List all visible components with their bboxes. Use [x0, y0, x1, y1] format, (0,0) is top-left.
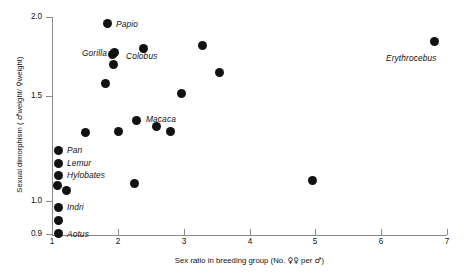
- data-point: [101, 79, 110, 88]
- data-point-label: Gorilla: [82, 48, 107, 58]
- x-tick-mark: [184, 229, 185, 235]
- data-point: [81, 128, 90, 137]
- data-point-label: Aotus: [67, 229, 89, 239]
- data-point: [108, 50, 117, 59]
- data-point: [130, 179, 139, 188]
- y-axis-title-mid: weight/: [15, 87, 24, 114]
- y-tick-mark: [46, 17, 52, 18]
- y-tick-mark: [46, 201, 52, 202]
- y-axis-title-post: weight): [15, 56, 24, 81]
- data-point: [103, 19, 112, 28]
- data-point: [430, 37, 439, 46]
- y-axis-line: [52, 17, 53, 235]
- data-point: [308, 176, 317, 185]
- data-point: [109, 60, 118, 69]
- male-symbol-x: ♂: [315, 256, 322, 265]
- x-tick-label: 5: [305, 237, 325, 246]
- data-point: [198, 41, 207, 50]
- data-point: [54, 229, 63, 238]
- data-point-label: Lemur: [67, 158, 91, 168]
- x-axis-title-post: ): [322, 256, 325, 265]
- data-point: [54, 171, 63, 180]
- y-axis-title-pre: Sexual dimorphism (: [15, 120, 24, 192]
- x-tick-mark: [315, 229, 316, 235]
- x-tick-mark: [447, 229, 448, 235]
- x-tick-label: 1: [42, 237, 62, 246]
- data-point-label: Erythrocebus: [386, 53, 437, 63]
- x-axis-title: Sex ratio in breeding group (No. ♀♀ per …: [52, 256, 447, 265]
- data-point: [177, 89, 186, 98]
- data-point-label: Indri: [67, 202, 84, 212]
- x-tick-label: 6: [371, 237, 391, 246]
- x-tick-mark: [118, 229, 119, 235]
- data-point: [53, 181, 62, 190]
- data-point-label: Colobus: [126, 51, 157, 61]
- data-point: [114, 127, 123, 136]
- male-symbol-y: ♂: [15, 113, 24, 120]
- x-axis-title-pre: Sex ratio in breeding group (No.: [175, 256, 288, 265]
- y-tick-mark: [46, 96, 52, 97]
- x-tick-label: 4: [240, 237, 260, 246]
- scatter-plot-figure: 2.01.51.00.9 1234567 Sexual dimorphism (…: [0, 0, 467, 278]
- data-point: [54, 146, 63, 155]
- x-tick-label: 2: [108, 237, 128, 246]
- data-point: [215, 68, 224, 77]
- data-point-label: Papio: [116, 19, 138, 29]
- data-point: [54, 159, 63, 168]
- data-point: [166, 127, 175, 136]
- data-point-label: Pan: [67, 145, 82, 155]
- female-symbol-x: ♀♀: [288, 256, 299, 265]
- x-tick-label: 7: [437, 237, 457, 246]
- data-point-label: Macaca: [146, 114, 176, 124]
- data-point: [54, 203, 63, 212]
- data-point: [62, 186, 71, 195]
- y-tick-label: 0.9: [16, 229, 42, 238]
- x-tick-mark: [250, 229, 251, 235]
- data-point-label: Hylobates: [67, 170, 105, 180]
- x-axis-title-mid: per: [299, 256, 315, 265]
- y-axis-title: Sexual dimorphism ( ♂weight/ ♀weight): [15, 25, 24, 225]
- data-point: [54, 216, 63, 225]
- x-tick-mark: [381, 229, 382, 235]
- data-point: [132, 116, 141, 125]
- female-symbol-y: ♀: [15, 81, 24, 87]
- y-tick-label: 2.0: [16, 12, 42, 21]
- x-tick-label: 3: [174, 237, 194, 246]
